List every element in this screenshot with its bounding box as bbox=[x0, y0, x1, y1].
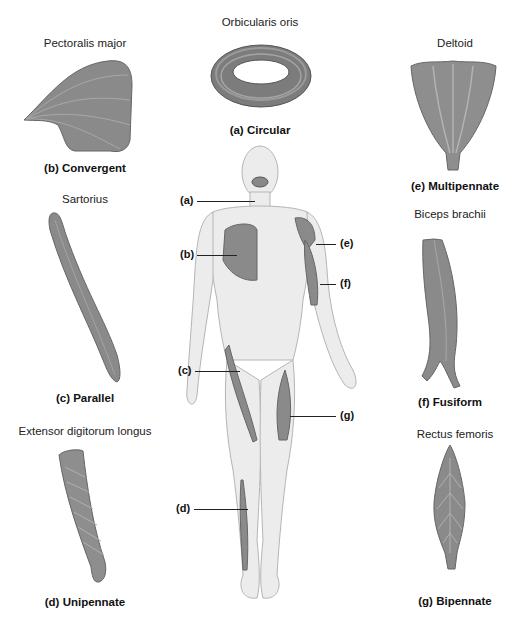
caption-unipennate: (d) Unipennate bbox=[0, 596, 170, 608]
leader-line-d bbox=[194, 509, 248, 510]
muscle-name-extensor-digitorum-longus: Extensor digitorum longus bbox=[0, 425, 170, 437]
leader-line-c bbox=[195, 371, 240, 372]
muscle-name-deltoid: Deltoid bbox=[410, 37, 500, 49]
caption-multipennate: (e) Multipennate bbox=[395, 180, 515, 192]
muscle-name-pectoralis-major: Pectoralis major bbox=[20, 37, 150, 49]
caption-parallel: (c) Parallel bbox=[30, 392, 140, 404]
rectus-femoris-illustration bbox=[425, 443, 475, 573]
muscle-name-orbicularis-oris: Orbicularis oris bbox=[190, 16, 330, 28]
orbicularis-oris-illustration bbox=[206, 40, 316, 112]
caption-circular: (a) Circular bbox=[190, 124, 330, 136]
caption-bipennate: (g) Bipennate bbox=[395, 595, 515, 607]
human-body-figure bbox=[175, 140, 385, 610]
label-d: (d) bbox=[176, 502, 190, 514]
muscle-name-biceps-brachii: Biceps brachii bbox=[400, 208, 500, 220]
label-e: (e) bbox=[340, 237, 353, 249]
leader-line-g bbox=[290, 416, 336, 417]
muscle-name-rectus-femoris: Rectus femoris bbox=[400, 428, 510, 440]
pectoralis-major-illustration bbox=[20, 55, 140, 155]
sartorius-illustration bbox=[45, 210, 125, 385]
label-g: (g) bbox=[340, 409, 354, 421]
leader-line-b bbox=[197, 255, 237, 256]
label-f: (f) bbox=[340, 277, 351, 289]
extensor-digitorum-longus-illustration bbox=[55, 447, 115, 587]
caption-fusiform: (f) Fusiform bbox=[395, 396, 505, 408]
biceps-brachii-illustration bbox=[420, 236, 470, 391]
caption-convergent: (b) Convergent bbox=[20, 162, 150, 174]
muscle-name-sartorius: Sartorius bbox=[30, 193, 140, 205]
leader-line-e bbox=[316, 244, 336, 245]
deltoid-illustration bbox=[408, 58, 498, 173]
label-c: (c) bbox=[178, 364, 191, 376]
leader-line-a bbox=[197, 201, 255, 202]
leader-line-f bbox=[320, 284, 336, 285]
label-a: (a) bbox=[180, 194, 193, 206]
label-b: (b) bbox=[180, 248, 194, 260]
